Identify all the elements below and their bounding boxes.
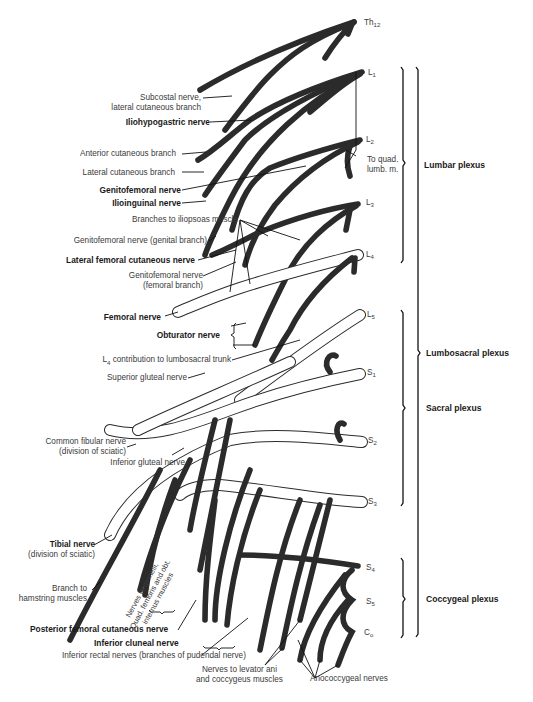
segment-label-l2: L2: [366, 135, 374, 145]
nerve-trunks: [70, 22, 362, 665]
label-genitofemoral-femoral-branch: Genitofemoral nerve(femoral branch): [129, 271, 203, 291]
plexus-label-lumbar: Lumbar plexus: [424, 160, 485, 170]
label-inferior-rectal-nerves: Inferior rectal nerves (branches of pude…: [62, 651, 246, 661]
label-inferior-gluteal-nerve: Inferior gluteal nerve: [110, 458, 185, 468]
label-subcostal-nerve: Subcostal nerve,lateral cutaneous branch: [111, 93, 201, 113]
label-branch-to-hamstring: Branch tohamstring muscles: [19, 584, 87, 604]
label-anterior-cutaneous-branch: Anterior cutaneous branch: [80, 149, 176, 159]
plexus-label-sacral: Sacral plexus: [426, 403, 481, 413]
label-branches-iliopsoas: Branches to iliopsoas muscle: [132, 215, 238, 225]
segment-label-s1: S1: [367, 368, 376, 378]
label-posterior-femoral-cutaneous-nerve: Posterior femoral cutaneous nerve: [30, 624, 168, 634]
segment-label-co: Co: [364, 628, 373, 638]
label-iliohypogastric-nerve: Iliohypogastric nerve: [126, 117, 210, 127]
label-ilioinguinal-nerve: Ilioinguinal nerve: [112, 198, 181, 208]
segment-label-l4: L4: [366, 250, 374, 260]
label-superior-gluteal-nerve: Superior gluteal nerve: [107, 373, 187, 383]
label-lateral-cutaneous-branch: Lateral cutaneous branch: [83, 168, 175, 178]
segment-label-s3: S3: [368, 497, 377, 507]
label-l4-contribution: L4 contribution to lumbosacral trunk: [102, 355, 231, 368]
label-common-fibular-nerve: Common fibular nerve(division of sciatic…: [45, 437, 126, 457]
label-obturator-nerve: Obturator nerve: [157, 330, 220, 340]
label-genitofemoral-genital-branch: Genitofemoral nerve (genital branch): [74, 236, 207, 246]
label-genitofemoral-nerve: Genitofemoral nerve: [100, 185, 181, 195]
label-anococcygeal-nerves: Anococcygeal nerves: [310, 674, 388, 684]
label-to-quad-lumb-m: To quad.lumb. m.: [367, 155, 398, 175]
segment-label-s2: S2: [368, 436, 377, 446]
label-femoral-nerve: Femoral nerve: [104, 312, 161, 322]
label-inferior-cluneal-nerve: Inferior cluneal nerve: [94, 638, 179, 648]
plexus-label-coccygeal: Coccygeal plexus: [426, 594, 499, 604]
label-lateral-femoral-cutaneous-nerve: Lateral femoral cutaneous nerve: [66, 255, 195, 265]
label-tibial-nerve: Tibial nerve(division of sciatic): [28, 540, 95, 560]
segment-label-l5: L5: [367, 310, 375, 320]
segment-label-l1: L1: [368, 68, 376, 78]
segment-label-s5: S5: [366, 597, 375, 607]
plexus-label-lumbosacral: Lumbosacral plexus: [426, 348, 509, 358]
label-nerves-to-levator-ani: Nerves to levator aniand coccygeus muscl…: [196, 665, 283, 685]
segment-label-l3: L3: [366, 198, 374, 208]
segment-label-s4: S4: [366, 563, 375, 573]
segment-label-th12: Th12: [364, 18, 380, 28]
